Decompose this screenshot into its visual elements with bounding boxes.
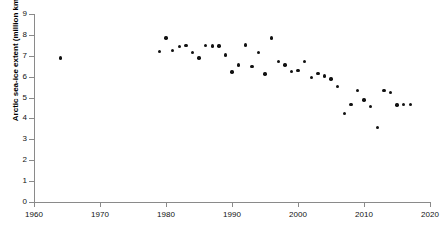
x-tick-1970 <box>100 202 101 207</box>
x-tick-label-1990: 1990 <box>212 210 252 219</box>
x-tick-label-2020: 2020 <box>410 210 444 219</box>
data-point <box>382 89 385 92</box>
y-tick-label-6: 6 <box>8 73 27 81</box>
x-tick-1960 <box>34 202 35 207</box>
data-point <box>164 36 167 39</box>
data-point <box>277 60 280 63</box>
x-tick-label-2000: 2000 <box>278 210 318 219</box>
data-point <box>217 44 220 47</box>
x-tick-1980 <box>166 202 167 207</box>
data-point <box>283 63 286 66</box>
x-tick-2020 <box>430 202 431 207</box>
data-point <box>376 126 379 129</box>
x-tick-1990 <box>232 202 233 207</box>
data-point <box>395 103 398 106</box>
data-point <box>224 53 227 56</box>
x-tick-2010 <box>364 202 365 207</box>
data-point <box>329 77 332 80</box>
y-tick-label-1: 1 <box>8 177 27 185</box>
x-tick-label-1980: 1980 <box>146 210 186 219</box>
data-point <box>184 44 187 47</box>
x-tick-label-1970: 1970 <box>80 210 120 219</box>
data-point <box>343 112 346 115</box>
y-tick-label-4: 4 <box>8 114 27 122</box>
data-point <box>178 45 181 48</box>
x-tick-label-2010: 2010 <box>344 210 384 219</box>
data-point <box>263 72 266 75</box>
plot-area <box>34 14 430 202</box>
y-tick-label-8: 8 <box>8 31 27 39</box>
y-tick-label-7: 7 <box>8 52 27 60</box>
data-point <box>59 56 62 59</box>
x-tick-2000 <box>298 202 299 207</box>
data-point <box>197 56 200 59</box>
data-point <box>211 44 214 47</box>
data-point <box>349 103 352 106</box>
y-tick-label-3: 3 <box>8 135 27 143</box>
data-point <box>250 65 253 68</box>
y-tick-label-0: 0 <box>8 198 27 206</box>
y-tick-label-2: 2 <box>8 156 27 164</box>
data-point <box>270 36 273 39</box>
y-tick-label-9: 9 <box>8 10 27 18</box>
x-tick-label-1960: 1960 <box>14 210 54 219</box>
data-point <box>409 103 412 106</box>
data-point <box>362 98 365 101</box>
data-point <box>230 70 233 73</box>
y-tick-label-5: 5 <box>8 94 27 102</box>
data-point <box>244 43 247 46</box>
data-point <box>296 69 299 72</box>
data-point <box>323 74 326 77</box>
